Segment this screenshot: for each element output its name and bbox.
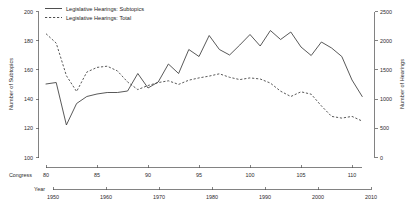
y-left-ticklabel-120: 120 bbox=[24, 125, 33, 131]
legend-label-subtopics: Legislative Hearings: Subtopics bbox=[66, 6, 144, 12]
figure-container: 200 180 160 140 120 100 Number of Subtop… bbox=[0, 0, 413, 209]
y-axis-right-title: Number of Hearings bbox=[399, 59, 405, 109]
y-right-ticklabel-2000: 2000 bbox=[380, 38, 392, 44]
x-axis-congress: 80 85 90 95 100 105 110 Congress bbox=[9, 165, 362, 179]
x-congress-ticklabel-95: 95 bbox=[196, 172, 202, 178]
x-year-ticklabel-1950: 1950 bbox=[47, 194, 59, 200]
y-left-ticklabel-180: 180 bbox=[24, 38, 33, 44]
y-left-ticklabel-200: 200 bbox=[24, 9, 33, 15]
y-axis-left-title: Number of Subtopics bbox=[8, 58, 14, 110]
x-axis-congress-title: Congress bbox=[9, 172, 32, 178]
x-year-ticklabel-1970: 1970 bbox=[153, 194, 165, 200]
x-year-ticklabel-1960: 1960 bbox=[100, 194, 112, 200]
y-left-ticklabel-160: 160 bbox=[24, 67, 33, 73]
y-axis-right-ticks bbox=[375, 12, 378, 158]
x-axis-year: 1950 1960 1970 1980 1990 2000 2010 Year bbox=[34, 186, 377, 200]
x-axis-year-ticks bbox=[53, 187, 371, 190]
x-congress-ticklabel-85: 85 bbox=[94, 172, 100, 178]
y-right-ticklabel-500: 500 bbox=[380, 125, 389, 131]
line-chart: 200 180 160 140 120 100 Number of Subtop… bbox=[0, 0, 413, 209]
legend-item-total[interactable]: Legislative Hearings: Total bbox=[45, 15, 131, 21]
y-right-ticklabel-0: 0 bbox=[380, 155, 383, 161]
x-year-ticklabel-2000: 2000 bbox=[312, 194, 324, 200]
chart-legend: Legislative Hearings: Subtopics Legislat… bbox=[45, 6, 144, 21]
x-congress-ticklabel-105: 105 bbox=[297, 172, 306, 178]
legend-label-total: Legislative Hearings: Total bbox=[66, 15, 131, 21]
y-right-ticklabel-1500: 1500 bbox=[380, 67, 392, 73]
y-right-ticklabel-2500: 2500 bbox=[380, 9, 392, 15]
x-year-ticklabel-2010: 2010 bbox=[365, 194, 377, 200]
x-axis-year-title: Year bbox=[34, 186, 45, 192]
x-year-ticklabel-1980: 1980 bbox=[206, 194, 218, 200]
x-axis-congress-ticks bbox=[46, 165, 352, 168]
x-year-ticklabel-1990: 1990 bbox=[259, 194, 271, 200]
legend-item-subtopics[interactable]: Legislative Hearings: Subtopics bbox=[45, 6, 144, 12]
x-congress-ticklabel-100: 100 bbox=[246, 172, 255, 178]
series-line-subtopics bbox=[46, 31, 362, 126]
x-congress-ticklabel-80: 80 bbox=[43, 172, 49, 178]
y-axis-left-ticks bbox=[36, 12, 39, 158]
y-axis-right: 2500 2000 1500 1000 500 0 Number of Hear… bbox=[375, 9, 406, 161]
y-right-ticklabel-1000: 1000 bbox=[380, 96, 392, 102]
x-congress-ticklabel-110: 110 bbox=[348, 172, 357, 178]
x-congress-ticklabel-90: 90 bbox=[145, 172, 151, 178]
y-axis-left: 200 180 160 140 120 100 Number of Subtop… bbox=[8, 9, 39, 161]
y-left-ticklabel-140: 140 bbox=[24, 96, 33, 102]
y-left-ticklabel-100: 100 bbox=[24, 155, 33, 161]
